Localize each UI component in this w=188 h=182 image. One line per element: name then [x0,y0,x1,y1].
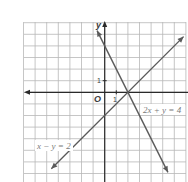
y-axis-label: y [95,20,102,30]
x-tick-1-label: 1 [113,96,117,103]
line-2x-plus-y-eq-4 [97,31,168,173]
x-axis-arrow-left-icon [24,90,30,95]
equation-lines [51,31,183,173]
equation-label-x-minus-y: x − y = 2 [36,141,71,151]
axes [24,21,188,182]
coordinate-plane: y O 1 1 2x + y = 4 x − y = 2 [0,0,188,182]
y-tick-1-label: 1 [97,77,101,84]
y-axis-arrow-up-icon [102,21,107,27]
equation-label-2x-plus-y: 2x + y = 4 [143,105,182,115]
origin-label: O [94,94,101,104]
